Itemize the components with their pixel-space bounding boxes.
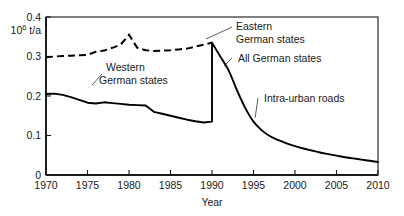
annotation-western-line2: German states xyxy=(99,74,168,86)
emissions-line-chart: 00.10.20.30.4 19701975198019851990199520… xyxy=(0,0,404,216)
chart-container: 00.10.20.30.4 19701975198019851990199520… xyxy=(0,0,404,216)
annotation-labels: Eastern German states Western German sta… xyxy=(99,20,345,104)
y-axis-tick-labels: 00.10.20.30.4 xyxy=(26,11,41,181)
y-tick-label-0.4: 0.4 xyxy=(26,11,41,23)
leader-line-all-german xyxy=(224,58,232,66)
annotation-intra-urban-roads: Intra-urban roads xyxy=(264,92,345,104)
leader-line-eastern xyxy=(206,27,232,39)
annotation-western-line1: Western xyxy=(106,61,145,73)
annotation-all-german-states: All German states xyxy=(238,52,321,64)
annotation-eastern-line2: German states xyxy=(236,33,305,45)
x-tick-label-1975: 1975 xyxy=(76,179,100,191)
y-tick-label-0.1: 0.1 xyxy=(26,129,41,141)
y-tick-label-0.3: 0.3 xyxy=(26,50,41,62)
x-tick-label-1980: 1980 xyxy=(117,179,141,191)
leader-line-intra-urban xyxy=(255,98,258,118)
x-tick-label-2010: 2010 xyxy=(366,179,390,191)
x-tick-label-1995: 1995 xyxy=(242,179,266,191)
y-tick-label-0.2: 0.2 xyxy=(26,90,41,102)
x-axis-title: Year xyxy=(201,196,223,208)
y-axis-unit-label: 106 t/a xyxy=(11,23,42,36)
x-tick-label-2000: 2000 xyxy=(283,179,307,191)
annotation-eastern-line1: Eastern xyxy=(236,20,272,32)
x-tick-label-1990: 1990 xyxy=(200,179,224,191)
x-tick-label-2005: 2005 xyxy=(325,179,349,191)
x-tick-label-1985: 1985 xyxy=(159,179,183,191)
x-axis-tick-labels: 197019751980198519901995200020052010 xyxy=(34,179,390,191)
x-tick-label-1970: 1970 xyxy=(34,179,58,191)
series-line-eastern-german-states xyxy=(46,35,212,58)
